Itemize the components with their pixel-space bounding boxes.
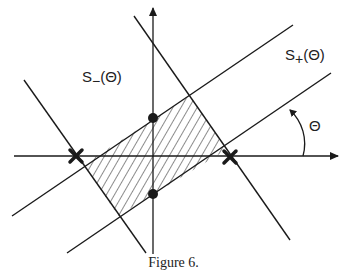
angle-arc [290, 110, 305, 156]
label-s-minus: S−(Θ) [82, 68, 122, 89]
dot-marker-upper [148, 113, 158, 123]
s-plus-sub: + [295, 51, 303, 67]
diagram-canvas [0, 0, 347, 276]
s-minus-sub: − [92, 73, 100, 89]
figure-caption: Figure 6. [0, 255, 347, 271]
angle-label: Θ [309, 117, 321, 134]
s-plus-arg: (Θ) [303, 46, 325, 63]
s-plus-base: S [285, 46, 295, 63]
s-minus-base: S [82, 68, 92, 85]
figure-6: S−(Θ) S+(Θ) Θ Figure 6. [0, 0, 347, 276]
s-minus-arg: (Θ) [100, 68, 122, 85]
dot-marker-lower [148, 189, 158, 199]
label-s-plus: S+(Θ) [285, 46, 325, 67]
